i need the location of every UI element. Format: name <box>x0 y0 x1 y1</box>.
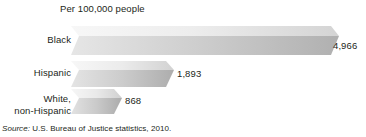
value-label-white-non-hispanic: 868 <box>125 95 141 107</box>
bar-black <box>71 26 339 55</box>
chart-title: Per 100,000 people <box>60 3 145 15</box>
bar-hispanic <box>71 61 174 87</box>
bar-black-shape <box>71 26 339 55</box>
bar-white-non-hispanic <box>71 89 122 114</box>
value-label-black: 4,966 <box>333 40 357 52</box>
bar-hispanic-shape <box>71 61 174 87</box>
source-prefix: Source: <box>2 124 30 133</box>
bar-chart: Per 100,000 people Black 4,966 <box>0 0 366 137</box>
value-label-hispanic: 1,893 <box>177 68 201 80</box>
category-label-black: Black <box>0 34 71 46</box>
category-label-white-non-hispanic: White, non-Hispanic <box>0 93 71 116</box>
category-label-hispanic: Hispanic <box>0 67 71 79</box>
bar-white-non-hispanic-shape <box>71 89 122 114</box>
source-note: Source: U.S. Bureau of Justice statistic… <box>2 123 171 134</box>
source-text: U.S. Bureau of Justice statistics, 2010. <box>32 124 171 133</box>
